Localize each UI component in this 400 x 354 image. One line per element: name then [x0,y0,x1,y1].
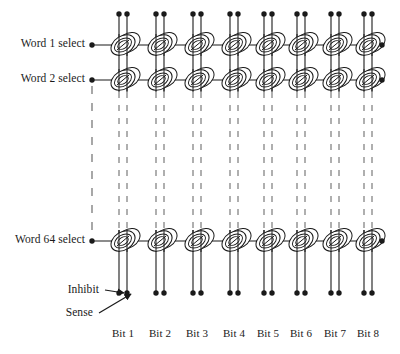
core-w1-b3 [181,28,218,59]
bit-column-label-8: Bit 8 [348,327,388,339]
core-w2-b1 [107,63,144,94]
annotation-label-inhibit: Inhibit [39,283,99,295]
bit-top-terminal-4-2 [235,11,240,16]
core-w2-b2 [144,63,181,94]
core-w2-b5 [252,63,289,94]
bit-top-terminal-4-1 [227,11,232,16]
core-w1-b7 [319,28,356,59]
core-w3-b7 [319,224,356,255]
bit-top-terminal-5-1 [261,11,266,16]
core-w3-b6 [285,224,322,255]
dashed-wire-layer [92,86,372,235]
bit-top-terminal-7-1 [328,11,333,16]
annotation-arrow-2 [99,294,131,313]
bit-top-terminal-1-1 [116,11,121,16]
core-w2-b4 [218,63,255,94]
word-line-right-terminal-1 [379,42,384,47]
word-line-left-terminal-3 [89,238,94,243]
bit-top-terminal-6-2 [302,11,307,16]
bit-top-terminal-5-2 [269,11,274,16]
word-line-right-terminal-2 [379,77,384,82]
bit-top-terminal-3-1 [190,11,195,16]
diagram-canvas [0,0,400,354]
core-memory-diagram: Word 1 selectWord 2 selectWord 64 select… [0,0,400,354]
word-select-label-3: Word 64 select [15,233,85,245]
word-line-right-terminal-3 [379,238,384,243]
core-w1-b2 [144,28,181,59]
bit-column-label-2: Bit 2 [140,327,180,339]
bit-top-terminal-7-2 [336,11,341,16]
core-w3-b3 [181,224,218,255]
bit-column-label-1: Bit 1 [103,327,143,339]
bit-bottom-terminal-3-2 [198,290,203,295]
bit-top-terminal-8-1 [361,11,366,16]
word-select-label-1: Word 1 select [21,37,85,49]
bit-top-terminal-8-2 [369,11,374,16]
core-w2-b6 [285,63,322,94]
core-w1-b4 [218,28,255,59]
core-w1-b5 [252,28,289,59]
word-line-left-terminal-2 [89,77,94,82]
bit-bottom-terminal-3-1 [190,290,195,295]
bit-top-terminal-1-2 [124,11,129,16]
word-select-label-2: Word 2 select [21,72,85,84]
bit-top-terminal-3-2 [198,11,203,16]
word-line-left-terminal-1 [89,42,94,47]
bit-bottom-terminal-8-1 [361,290,366,295]
bit-column-label-3: Bit 3 [177,327,217,339]
bit-bottom-terminal-5-1 [261,290,266,295]
bit-bottom-terminal-2-2 [161,290,166,295]
core-w2-b3 [181,63,218,94]
bit-bottom-terminal-6-1 [294,290,299,295]
core-w2-b7 [319,63,356,94]
bit-bottom-terminal-6-2 [302,290,307,295]
bit-bottom-terminal-4-1 [227,290,232,295]
core-w3-b1 [107,224,144,255]
core-layer [107,28,389,255]
bit-top-terminal-2-1 [153,11,158,16]
bit-top-terminal-2-2 [161,11,166,16]
bit-bottom-terminal-4-2 [235,290,240,295]
bit-bottom-terminal-2-1 [153,290,158,295]
bit-bottom-terminal-7-1 [328,290,333,295]
core-w1-b1 [107,28,144,59]
core-w1-b6 [285,28,322,59]
annotation-label-sense: Sense [33,306,93,318]
bit-bottom-terminal-8-2 [369,290,374,295]
bit-top-terminal-6-1 [294,11,299,16]
bit-bottom-terminal-5-2 [269,290,274,295]
core-w3-b2 [144,224,181,255]
core-w3-b5 [252,224,289,255]
bit-bottom-terminal-7-2 [336,290,341,295]
core-w3-b4 [218,224,255,255]
